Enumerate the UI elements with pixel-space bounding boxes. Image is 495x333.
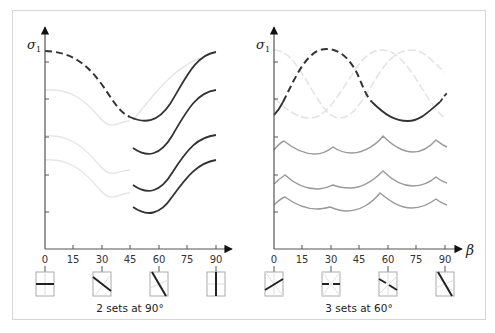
- right-x-label-beta: β: [465, 242, 474, 258]
- left-icon-connectors: [45, 266, 216, 272]
- right-solid-envelope-right: [372, 102, 440, 121]
- right-x-tick-labels: 0 15 30 45 60 75 90: [271, 254, 452, 265]
- figure-canvas: σ1 0 15 30 45 60 75 90: [0, 0, 495, 333]
- right-grey-curves: [274, 136, 447, 211]
- svg-text:45: 45: [124, 254, 137, 265]
- left-x-tick-labels: 0 15 30 45 60 75 90: [42, 254, 223, 265]
- left-solid-curves: [130, 52, 216, 213]
- svg-text:75: 75: [181, 254, 194, 265]
- right-dashed-envelope: [283, 49, 372, 102]
- svg-text:60: 60: [382, 254, 395, 265]
- right-ghost-curves: [274, 50, 445, 118]
- svg-text:15: 15: [296, 254, 309, 265]
- right-solid-envelope-left: [274, 102, 283, 115]
- svg-text:15: 15: [67, 254, 80, 265]
- svg-text:30: 30: [96, 254, 109, 265]
- right-joint-icon-60: [379, 272, 397, 296]
- right-chart: σ1 β 0 15 30 45 60 75 90: [256, 27, 474, 314]
- svg-text:60: 60: [153, 254, 166, 265]
- left-joint-icon-30: [93, 272, 111, 296]
- svg-text:0: 0: [271, 254, 277, 265]
- right-dashed-envelope-tail: [440, 93, 447, 102]
- svg-text:90: 90: [210, 254, 223, 265]
- right-joint-icon-90: [436, 272, 454, 296]
- right-joint-icon-30: [322, 272, 340, 296]
- svg-text:45: 45: [353, 254, 366, 265]
- left-joint-icon-90: [207, 272, 225, 296]
- right-caption: 3 sets at 60°: [325, 302, 392, 314]
- left-y-label: σ1: [27, 37, 41, 54]
- left-joint-icon-0: [36, 272, 54, 296]
- svg-text:0: 0: [42, 254, 48, 265]
- left-joint-icon-60: [150, 272, 168, 296]
- right-joint-icon-0: [265, 272, 283, 296]
- left-caption: 2 sets at 90°: [96, 302, 163, 314]
- svg-text:30: 30: [325, 254, 338, 265]
- right-icon-connectors: [274, 266, 445, 272]
- left-chart: σ1 0 15 30 45 60 75 90: [27, 27, 232, 314]
- svg-text:90: 90: [439, 254, 452, 265]
- left-dashed-envelope: [45, 51, 130, 117]
- right-y-label: σ1: [256, 37, 270, 54]
- svg-text:75: 75: [410, 254, 423, 265]
